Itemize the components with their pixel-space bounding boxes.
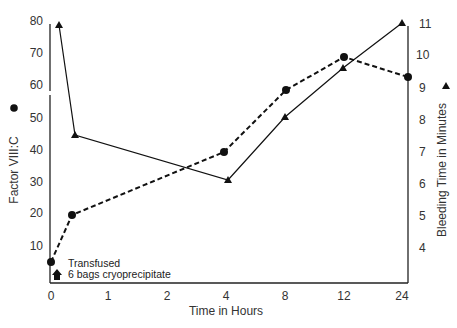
svg-text:4: 4 [419, 241, 426, 255]
svg-text:0: 0 [48, 289, 55, 303]
chart: 80 70 60 50 40 30 20 10 11 10 9 8 7 6 5 … [0, 0, 457, 328]
svg-text:20: 20 [30, 206, 44, 220]
x-tick-labels: 0 1 2 4 8 12 24 [48, 289, 409, 303]
svg-text:10: 10 [30, 239, 44, 253]
svg-text:12: 12 [337, 289, 351, 303]
data-point [404, 73, 412, 81]
data-point [71, 131, 79, 138]
svg-text:8: 8 [419, 113, 426, 127]
data-point [282, 86, 290, 94]
svg-text:10: 10 [416, 48, 430, 62]
svg-text:4: 4 [223, 289, 230, 303]
svg-text:60: 60 [30, 78, 44, 92]
svg-text:11: 11 [419, 17, 432, 31]
bleeding-time-points [55, 19, 406, 183]
left-axis-title: Factor VIII:C [7, 136, 21, 204]
svg-text:50: 50 [30, 111, 44, 125]
axes [50, 24, 408, 283]
svg-text:70: 70 [30, 46, 44, 60]
x-axis-title: Time in Hours [189, 304, 263, 318]
data-point [220, 148, 228, 156]
svg-text:1: 1 [105, 289, 112, 303]
svg-text:7: 7 [419, 145, 426, 159]
svg-text:24: 24 [395, 289, 409, 303]
data-point [398, 19, 406, 26]
svg-text:Factor VIII:C: Factor VIII:C [7, 136, 21, 204]
svg-text:30: 30 [30, 175, 44, 189]
right-axis-title: Bleeding Time in Minutes [435, 103, 449, 237]
svg-text:5: 5 [419, 209, 426, 223]
factor-viii-line [51, 57, 408, 262]
data-point [340, 53, 348, 61]
right-tick-labels: 11 10 9 8 7 6 5 4 [416, 17, 432, 255]
svg-text:80: 80 [30, 14, 44, 28]
svg-text:40: 40 [30, 143, 44, 157]
left-axis-circle-marker-icon [10, 104, 18, 112]
left-tick-labels: 80 70 60 50 40 30 20 10 [30, 14, 44, 253]
up-arrow-icon [52, 269, 62, 280]
data-point [55, 21, 63, 28]
svg-text:Bleeding Time in Minutes: Bleeding Time in Minutes [435, 103, 449, 237]
data-point [339, 64, 347, 71]
svg-text:6: 6 [419, 177, 426, 191]
svg-text:9: 9 [419, 81, 426, 95]
bleeding-time-line [59, 23, 402, 180]
annotation-line-2: 6 bags cryoprecipitate [68, 268, 171, 280]
factor-viii-points [47, 53, 412, 266]
svg-text:2: 2 [164, 289, 171, 303]
data-point [47, 258, 55, 266]
svg-text:8: 8 [282, 289, 289, 303]
right-axis-triangle-marker-icon [442, 82, 450, 89]
data-point [68, 211, 76, 219]
